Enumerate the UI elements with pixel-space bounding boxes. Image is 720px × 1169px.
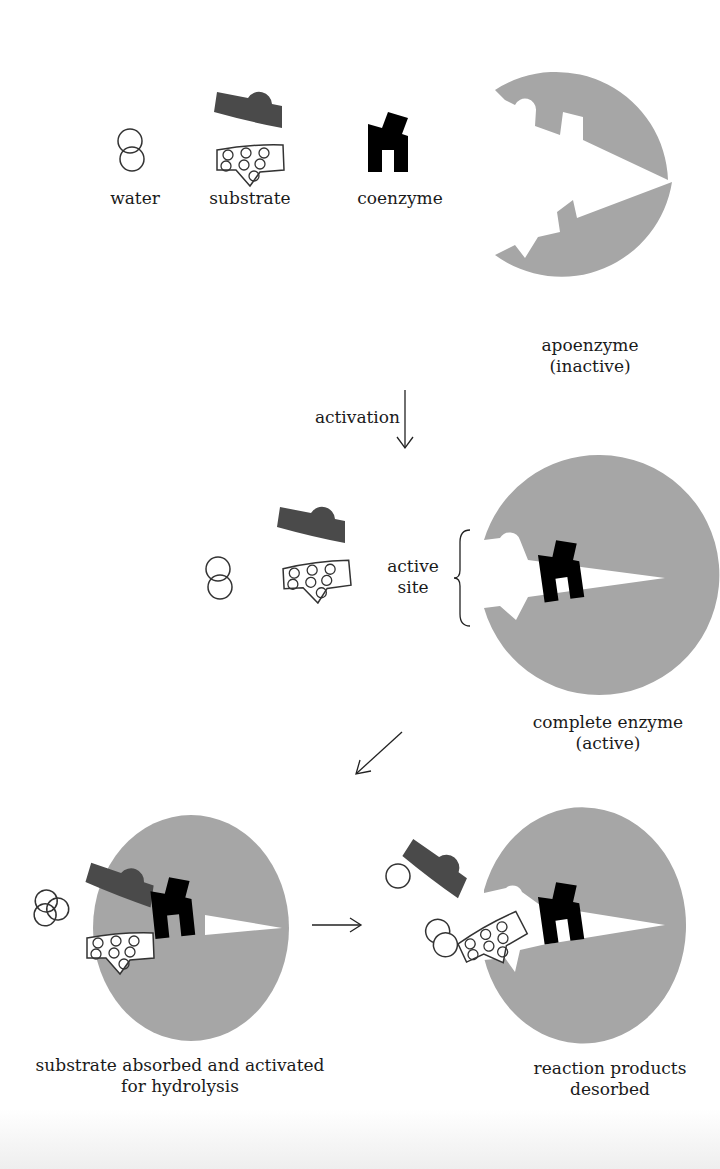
water-label: water [105,188,165,209]
activation-label: activation [300,407,400,428]
complete-enzyme-icon [484,455,719,695]
active-site-brace-icon [454,530,470,626]
reaction-products-label-line2: desorbed [520,1079,700,1100]
substrate-label: substrate [200,188,300,209]
substrate-icon [214,92,284,186]
active-site-label-line2: site [378,577,448,598]
water-molecule-icon [118,129,144,171]
apoenzyme-label: apoenzyme (inactive) [520,335,660,377]
apoenzyme-label-line1: apoenzyme [520,335,660,356]
water-molecule-icon [206,557,232,599]
complete-enzyme-label-line2: (active) [518,733,698,754]
page-bottom-shade [0,1109,720,1169]
active-site-label: active site [378,556,448,598]
apoenzyme-icon [495,72,672,277]
coenzyme-label: coenzyme [345,188,455,209]
complete-enzyme-label-line1: complete enzyme [518,712,698,733]
reaction-products-enzyme-icon [386,807,686,1043]
reaction-products-label-line1: reaction products [520,1058,700,1079]
apoenzyme-label-line2: (inactive) [520,356,660,377]
substrate-absorbed-enzyme-icon [24,815,289,1041]
diagonal-arrow [357,732,402,773]
enzyme-activation-diagram [0,0,720,1169]
substrate-icon [277,507,352,605]
coenzyme-icon [368,112,408,172]
complete-enzyme-label: complete enzyme (active) [518,712,698,754]
substrate-absorbed-label: substrate absorbed and activated for hyd… [10,1055,350,1097]
substrate-absorbed-label-line2: for hydrolysis [10,1076,350,1097]
substrate-absorbed-label-line1: substrate absorbed and activated [10,1055,350,1076]
active-site-label-line1: active [378,556,448,577]
reaction-products-label: reaction products desorbed [520,1058,700,1100]
